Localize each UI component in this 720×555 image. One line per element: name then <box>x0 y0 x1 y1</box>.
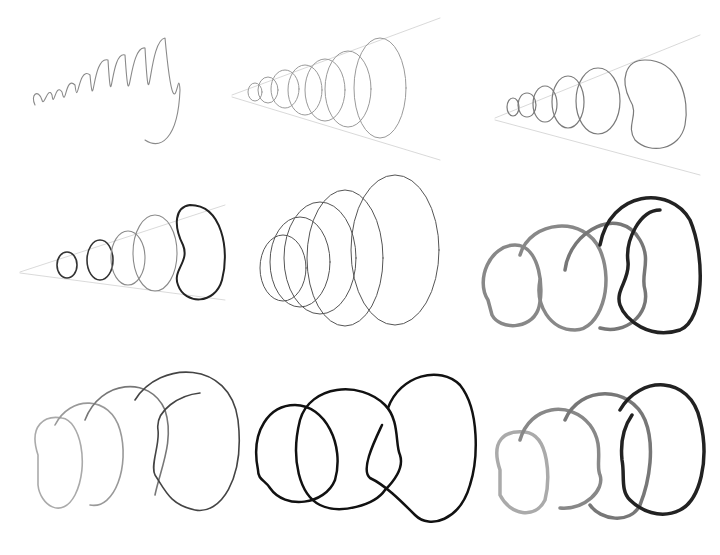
panel-thin-gradient-profile <box>35 372 239 510</box>
panel-thick-gradient-profile <box>483 198 700 333</box>
panel-pencil-profiles <box>495 35 700 175</box>
panel-pencil-darkened <box>20 205 225 300</box>
sketch-grid <box>0 0 720 555</box>
panel-pencil-ellipses-guides <box>232 18 440 160</box>
panel-pencil-spiral <box>33 38 180 143</box>
panel-thin-ellipses <box>260 175 439 326</box>
panel-black-profile <box>256 375 476 522</box>
panel-thick-profile-fewer-loops <box>497 385 704 518</box>
